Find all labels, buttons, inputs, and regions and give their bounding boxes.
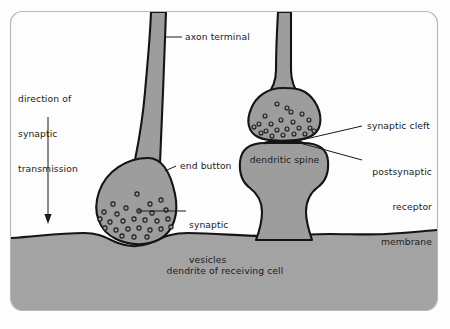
synaptic-vesicles-line-2: vesicles [189, 254, 251, 266]
postsynaptic-line-3: membrane [352, 236, 432, 248]
label-dendritic-spine: dendritic spine [243, 154, 326, 166]
direction-line-3: transmission [18, 163, 108, 175]
label-dendrite-of-receiving-cell: dendrite of receiving cell [135, 265, 315, 277]
direction-line-2: synaptic [18, 128, 108, 140]
label-direction-of-synaptic-transmission: direction of synaptic transmission [18, 70, 108, 198]
label-end-button: end button [180, 160, 232, 172]
direction-line-1: direction of [18, 93, 108, 105]
postsynaptic-line-2: receptor [352, 201, 432, 213]
postsynaptic-line-1: postsynaptic [352, 166, 432, 178]
label-axon-terminal: axon terminal [185, 31, 250, 43]
label-postsynaptic-receptor-membrane: postsynaptic receptor membrane [352, 143, 432, 271]
label-synaptic-cleft: synaptic cleft [367, 120, 430, 132]
synaptic-transmission-diagram: direction of synaptic transmission axon … [0, 0, 450, 329]
synaptic-vesicles-line-1: synaptic [189, 219, 251, 231]
